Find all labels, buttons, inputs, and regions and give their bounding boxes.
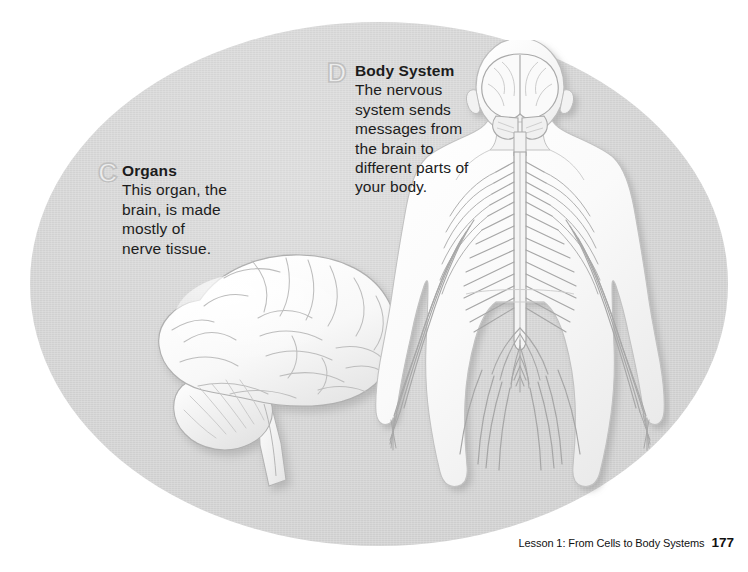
footer-lesson-title: Lesson 1: From Cells to Body Systems	[519, 537, 705, 549]
brain-shape-group	[159, 255, 397, 486]
footer-page-number: 177	[711, 535, 734, 550]
callout-body-system: Body System The nervous system sends mes…	[355, 61, 495, 197]
callout-organs: Organs This organ, the brain, is made mo…	[122, 161, 252, 258]
textbook-page: C Organs This organ, the brain, is made …	[0, 0, 748, 572]
callout-marker-c: C	[98, 160, 118, 187]
callout-organs-heading: Organs	[122, 161, 252, 180]
spinal-cord	[514, 152, 526, 350]
callout-marker-d: D	[327, 60, 347, 87]
callout-body-system-body: The nervous system sends messages from t…	[355, 80, 495, 196]
page-footer: Lesson 1: From Cells to Body Systems177	[519, 535, 734, 550]
callout-organs-body: This organ, the brain, is made mostly of…	[122, 180, 252, 258]
callout-body-system-heading: Body System	[355, 61, 495, 80]
